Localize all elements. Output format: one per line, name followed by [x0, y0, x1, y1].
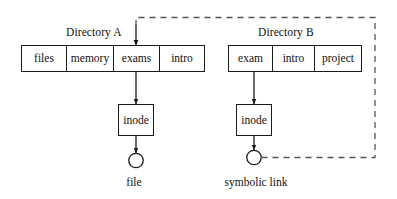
file-endpoint-label: file — [112, 176, 156, 189]
symlink-reference-dashed-path — [136, 18, 375, 158]
directory-a-entry-memory[interactable]: memory — [67, 46, 114, 71]
directory-b-entry-table: exam intro project — [228, 45, 362, 72]
symlink-endpoint-circle — [247, 150, 261, 164]
file-endpoint-circle — [129, 153, 143, 167]
directory-b-entry-project[interactable]: project — [315, 46, 361, 71]
directory-a-title: Directory A — [66, 26, 122, 39]
filesystem-symlink-diagram: Directory A Directory B files memory exa… — [0, 0, 397, 199]
directory-a-entry-intro[interactable]: intro — [160, 46, 204, 71]
directory-a-entry-table: files memory exams intro — [21, 45, 205, 72]
inode-box-a: inode — [118, 104, 154, 136]
directory-b-title: Directory B — [258, 26, 314, 39]
directory-b-entry-exam[interactable]: exam — [229, 46, 273, 71]
inode-box-b: inode — [236, 104, 272, 136]
symlink-endpoint-label: symbolic link — [212, 176, 300, 189]
diagram-connectors-layer — [0, 0, 397, 199]
directory-a-entry-exams[interactable]: exams — [114, 46, 160, 71]
directory-b-entry-intro[interactable]: intro — [273, 46, 315, 71]
directory-a-entry-files[interactable]: files — [22, 46, 67, 71]
